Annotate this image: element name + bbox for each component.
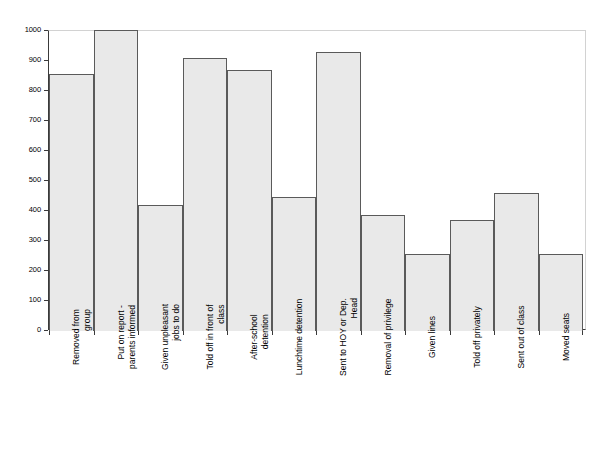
x-axis-tick-mark <box>582 331 583 335</box>
bar-slot <box>138 30 183 331</box>
bar-slot <box>183 30 228 331</box>
x-axis-tick-mark <box>94 331 95 335</box>
bar-slot <box>494 30 539 331</box>
x-axis-label-line: jobs to do <box>171 304 182 370</box>
x-axis-tick-mark <box>405 331 406 335</box>
bars-layer <box>49 30 583 331</box>
x-axis-label-line: Head <box>349 298 360 376</box>
x-axis-label-slot: Sent to HOY or Dep.Head <box>316 337 361 453</box>
bar <box>49 74 94 332</box>
x-axis-label-line: group <box>82 309 93 365</box>
x-axis-tick-mark <box>227 331 228 335</box>
x-axis-tick-mark <box>183 331 184 335</box>
x-axis-tick-mark <box>49 331 50 335</box>
y-axis-tick-label: 600 <box>29 145 41 154</box>
x-axis-label-inner: Put on report -parents informed <box>116 305 138 369</box>
y-axis-tick-label: 1000 <box>25 25 41 34</box>
x-axis-label-inner: Given unpleasantjobs to do <box>160 304 182 370</box>
y-axis-tick-label: 200 <box>29 265 41 274</box>
x-axis-label-slot: Put on report -parents informed <box>94 337 139 453</box>
y-axis-tick-label: 300 <box>29 235 41 244</box>
x-axis-label-inner: Told off privately <box>472 306 483 367</box>
x-axis-label-slot: Told off in front ofclass <box>183 337 228 453</box>
x-axis-tick-mark <box>539 331 540 335</box>
bar <box>316 52 361 331</box>
x-axis-label-line: Put on report - <box>116 305 127 369</box>
x-axis-tick-mark <box>138 331 139 335</box>
x-axis-label-line: Told off in front of <box>205 304 216 369</box>
bar-slot <box>316 30 361 331</box>
x-axis-label-line: detention <box>260 314 271 359</box>
x-axis-label-line: class <box>216 304 227 369</box>
bar-slot <box>227 30 272 331</box>
y-axis-tick-label: 700 <box>29 115 41 124</box>
x-axis-label-inner: Moved seats <box>561 313 572 361</box>
x-axis-label-line: parents informed <box>127 305 138 369</box>
x-axis-label-slot: Lunchtime detention <box>272 337 317 453</box>
x-axis-label-line: Given lines <box>427 316 438 358</box>
bar-slot <box>539 30 584 331</box>
x-axis-label-slot: Given unpleasantjobs to do <box>138 337 183 453</box>
x-axis-label-slot: After-schooldetention <box>227 337 272 453</box>
y-axis-tick-label: 800 <box>29 85 41 94</box>
y-axis-tick-label: 900 <box>29 55 41 64</box>
x-axis-label-inner: Removal of privilege <box>383 298 394 375</box>
x-axis-label-inner: Removed fromgroup <box>71 309 93 365</box>
bar <box>94 30 139 331</box>
x-axis-label-inner: Lunchtime detention <box>294 299 305 376</box>
bar <box>183 58 228 331</box>
x-axis-label-slot: Removed fromgroup <box>49 337 94 453</box>
y-axis-tick-label: 400 <box>29 205 41 214</box>
x-axis-tick-mark <box>361 331 362 335</box>
y-axis-tick-label: 100 <box>29 295 41 304</box>
bar-slot <box>49 30 94 331</box>
x-axis-label-inner: After-schooldetention <box>249 314 271 359</box>
x-axis-label-line: Given unpleasant <box>160 304 171 370</box>
x-axis-label-inner: Sent to HOY or Dep.Head <box>338 298 360 376</box>
x-axis-label-line: Moved seats <box>561 313 572 361</box>
y-axis-tick-mark <box>44 330 48 331</box>
x-axis-label-line: Removed from <box>71 309 82 365</box>
x-axis-label-inner: Told off in front ofclass <box>205 304 227 369</box>
x-axis-label-line: Lunchtime detention <box>294 299 305 376</box>
x-axis-label-line: Sent out of class <box>516 306 527 369</box>
x-axis-labels: Removed fromgroupPut on report -parents … <box>49 337 583 453</box>
x-axis-label-inner: Sent out of class <box>516 306 527 369</box>
x-axis-label-inner: Given lines <box>427 316 438 358</box>
bar-chart: 01002003004005006007008009001000 Removed… <box>0 0 611 455</box>
x-axis-label-line: After-school <box>249 314 260 359</box>
y-axis-tick-label: 0 <box>37 325 41 334</box>
x-axis-tick-mark <box>272 331 273 335</box>
x-axis-label-slot: Sent out of class <box>494 337 539 453</box>
y-axis: 01002003004005006007008009001000 <box>0 30 48 330</box>
x-axis-label-line: Sent to HOY or Dep. <box>338 298 349 376</box>
bar-slot <box>94 30 139 331</box>
x-axis-tick-mark <box>494 331 495 335</box>
x-axis-label-slot: Removal of privilege <box>361 337 406 453</box>
bar-slot <box>272 30 317 331</box>
y-axis-tick-label: 500 <box>29 175 41 184</box>
x-axis-label-line: Removal of privilege <box>383 298 394 375</box>
x-axis-tick-mark <box>316 331 317 335</box>
bar-slot <box>405 30 450 331</box>
x-axis-label-slot: Given lines <box>405 337 450 453</box>
bar-slot <box>361 30 406 331</box>
x-axis-tick-mark <box>450 331 451 335</box>
bar <box>227 70 272 331</box>
bar-slot <box>450 30 495 331</box>
x-axis-label-line: Told off privately <box>472 306 483 367</box>
x-axis-label-slot: Moved seats <box>539 337 584 453</box>
x-axis-label-slot: Told off privately <box>450 337 495 453</box>
